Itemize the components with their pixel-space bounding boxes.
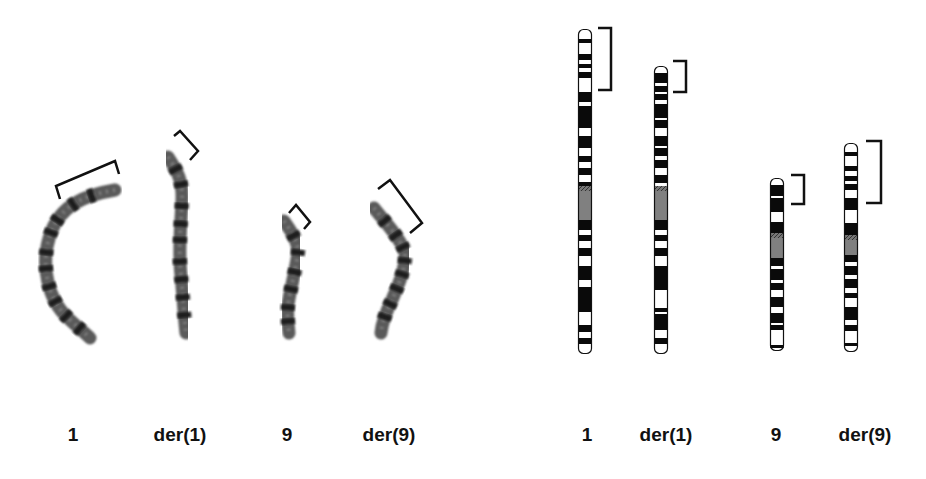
- translocation-bracket: [673, 61, 686, 92]
- photo-chromosome-der1: [168, 131, 198, 333]
- ideogram-der1: [654, 61, 686, 354]
- translocation-bracket: [174, 131, 198, 160]
- translocation-bracket: [791, 175, 804, 204]
- label-ideogram-chr9: 9: [771, 424, 782, 446]
- label-ideogram-der9: der(9): [839, 424, 892, 446]
- karyotype-figure: [0, 0, 926, 479]
- label-ideogram-chr1: 1: [582, 424, 593, 446]
- ideogram-chromosomes-panel: [578, 28, 881, 354]
- photo-chromosomes-panel: [39, 131, 422, 338]
- photo-chromosome-9: [281, 205, 310, 333]
- label-photo-der9: der(9): [363, 424, 416, 446]
- label-photo-der1: der(1): [154, 424, 207, 446]
- photo-chromosome-1: [39, 161, 119, 338]
- photo-chromosome-der9: [374, 180, 422, 333]
- label-photo-chr1: 1: [68, 424, 79, 446]
- ideogram-9: [770, 175, 804, 351]
- ideogram-der9: [844, 141, 881, 352]
- ideogram-1: [578, 28, 611, 354]
- label-ideogram-der1: der(1): [640, 424, 693, 446]
- label-photo-chr9: 9: [282, 424, 293, 446]
- translocation-bracket: [866, 141, 881, 203]
- translocation-bracket: [598, 28, 611, 90]
